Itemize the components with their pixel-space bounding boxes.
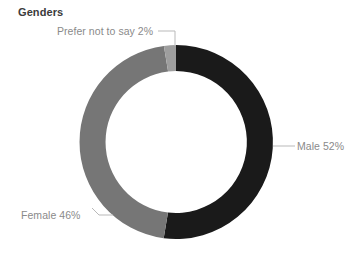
slice-label-prefer-not-to-say: Prefer not to say 2% <box>57 25 153 37</box>
donut-chart-container: Genders Prefer not to say 2% Male 52% Fe… <box>0 0 364 258</box>
slice-label-female: Female 46% <box>21 209 80 221</box>
donut-slice-male[interactable] <box>164 45 273 239</box>
slice-label-male: Male 52% <box>297 140 344 152</box>
leader-line-prefer-not-to-say <box>158 31 175 46</box>
